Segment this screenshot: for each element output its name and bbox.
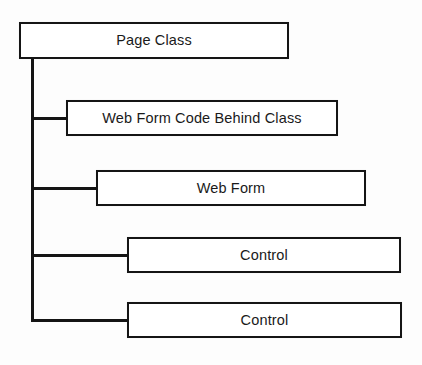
node-label-page-class: Page Class bbox=[116, 33, 192, 48]
branch-connector-3 bbox=[31, 254, 129, 257]
branch-connector-1 bbox=[31, 117, 68, 120]
node-control-1[interactable]: Control bbox=[127, 237, 401, 273]
node-label-web-form: Web Form bbox=[197, 181, 266, 196]
diagram-canvas: Page Class Web Form Code Behind Class We… bbox=[0, 0, 422, 365]
branch-connector-4 bbox=[31, 319, 129, 322]
node-page-class[interactable]: Page Class bbox=[19, 22, 289, 59]
node-web-form[interactable]: Web Form bbox=[96, 170, 366, 206]
branch-connector-2 bbox=[31, 187, 98, 190]
node-control-2[interactable]: Control bbox=[127, 302, 402, 338]
node-label-control-1: Control bbox=[240, 248, 288, 263]
node-label-web-form-code-behind-class: Web Form Code Behind Class bbox=[102, 111, 301, 126]
node-label-control-2: Control bbox=[241, 313, 289, 328]
node-web-form-code-behind-class[interactable]: Web Form Code Behind Class bbox=[66, 100, 338, 136]
